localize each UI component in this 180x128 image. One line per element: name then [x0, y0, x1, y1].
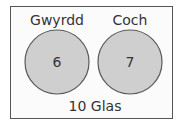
- set-value-coch: 7: [115, 54, 145, 70]
- set-value-gwyrdd: 6: [42, 54, 72, 70]
- outside-label: 10 Glas: [55, 98, 135, 114]
- set-label-coch: Coch: [100, 12, 160, 28]
- set-label-gwyrdd: Gwyrdd: [27, 12, 87, 28]
